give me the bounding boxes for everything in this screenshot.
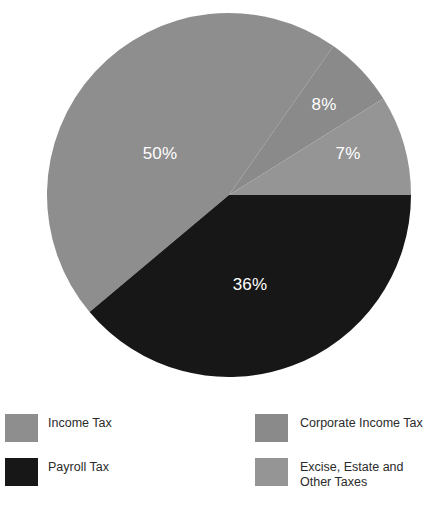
legend-label-excise-estate-other-taxes: Excise, Estate and Other Taxes (300, 460, 440, 490)
pie-slice-label: 8% (312, 95, 337, 114)
legend-swatch-corporate-income-tax (255, 414, 288, 442)
pie-chart: 50%36%8%7% Income Tax Payroll Tax Corpor… (0, 0, 440, 513)
legend-swatch-payroll-tax (5, 458, 38, 486)
pie-slice-group (47, 13, 411, 377)
legend-swatch-excise-estate-other-taxes (255, 458, 288, 486)
chart-legend: Income Tax Payroll Tax Corporate Income … (0, 405, 440, 513)
pie-plot-area: 50%36%8%7% (0, 0, 440, 400)
legend-label-payroll-tax: Payroll Tax (48, 460, 218, 475)
legend-label-income-tax: Income Tax (48, 416, 218, 431)
pie-svg: 50%36%8%7% (0, 0, 440, 400)
legend-label-corporate-income-tax: Corporate Income Tax (300, 416, 440, 431)
legend-swatch-income-tax (5, 414, 38, 442)
pie-slice-label: 7% (336, 144, 361, 163)
pie-slice-label: 36% (233, 275, 268, 294)
pie-slice-label: 50% (143, 144, 178, 163)
